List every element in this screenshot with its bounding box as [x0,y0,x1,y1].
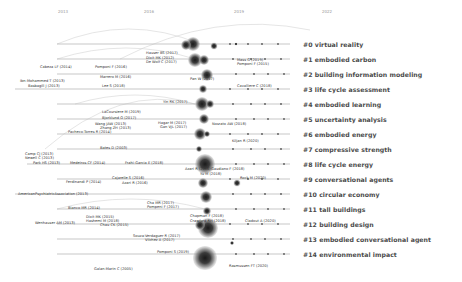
node-label[interactable]: Pomponi S (2019) [157,250,189,254]
citation-node[interactable] [230,241,234,245]
node-label[interactable]: Pompeni F (2017) [147,205,179,209]
cluster-label-1[interactable]: #1 embodied carbon [303,56,376,63]
node-label[interactable]: Gaudiano F (2018) [211,167,245,171]
node-label[interactable]: De Wolf C (2017) [146,60,177,64]
cluster-label-4[interactable]: #4 embodied learning [303,101,381,108]
citation-node[interactable] [199,85,207,93]
node-label[interactable]: Cavalliere C (2018) [237,84,272,88]
minor-node [247,43,249,45]
minor-node [250,238,252,240]
minor-node [235,118,237,120]
node-label[interactable]: Pacheco-Torres R (2014) [68,130,111,134]
node-label[interactable]: Azari R (2016) [185,167,211,171]
node-label[interactable]: Yin RK (2017) [163,100,187,104]
minor-node [235,73,237,75]
node-label[interactable]: Lee S (2018) [102,84,125,88]
node-label[interactable]: Ferdinandi P (2014) [66,180,101,184]
cluster-label-0[interactable]: #0 virtual reality [303,41,363,48]
minor-node [267,73,269,75]
minor-node [250,103,252,105]
node-label[interactable]: Wenhauser AM (2013) [35,221,75,225]
cluster-label-5[interactable]: #5 uncertainty analysis [303,116,387,123]
node-label[interactable]: Rasmussen FT (2020) [229,264,268,268]
node-label[interactable]: Marrero M (2016) [100,75,131,79]
citation-node[interactable] [235,43,238,46]
node-label[interactable]: Frahi-Garcia E (2018) [125,161,163,165]
node-label[interactable]: Basbagill J (2013) [28,84,60,88]
minor-node [247,88,249,90]
minor-node [283,73,285,75]
node-label[interactable]: Ibn-Mohammed T (2013) [20,79,65,83]
minor-node [250,148,252,150]
minor-node [267,253,269,255]
node-label[interactable]: AmericanPsychiatricAssociation (2013) [18,192,88,196]
node-label[interactable]: Pomponi F (2015) [237,62,269,66]
node-label[interactable]: Cladout A (2020) [245,219,276,223]
citation-node[interactable] [196,146,202,152]
minor-node [261,43,263,45]
node-label[interactable]: Bianco MR (2014) [68,206,100,210]
cluster-label-11[interactable]: #11 tall buildings [303,206,366,213]
citation-node[interactable] [199,55,209,65]
minor-node [280,193,282,195]
minor-node [253,253,255,255]
node-label[interactable]: Gan VJL (2017) [160,125,187,129]
cluster-label-13[interactable]: #13 embodied conversational agent [303,236,431,243]
node-label[interactable]: Nosrato AW (2018) [212,122,246,126]
cluster-label-14[interactable]: #14 environmental impact [303,251,397,258]
node-label[interactable]: Medeiros CF (2014) [70,161,105,165]
node-label[interactable]: Kiljan R (2020) [232,139,259,143]
node-label[interactable]: LaCoursiere M (2019) [102,110,141,114]
minor-node [253,163,255,165]
minor-node [235,253,237,255]
minor-node [264,193,266,195]
node-label[interactable]: Cajarelle S (2016) [112,176,144,180]
minor-node [235,208,237,210]
cluster-label-10[interactable]: #10 circular economy [303,191,380,198]
cluster-label-6[interactable]: #6 embodied energy [303,131,377,138]
minor-node [232,238,234,240]
citation-node[interactable] [195,154,215,174]
citation-node[interactable] [199,114,209,124]
cluster-label-9[interactable]: #9 conversational agents [303,176,393,183]
citation-node[interactable] [198,178,208,188]
node-label[interactable]: Hauser BS (2017) [146,51,178,55]
node-label[interactable]: Newell C (2013) [25,156,54,160]
node-label[interactable]: Chapman F (2018) [190,214,224,218]
cluster-label-8[interactable]: #8 life cycle energy [303,161,373,168]
cluster-label-12[interactable]: #12 building design [303,221,374,228]
minor-node [267,163,269,165]
node-label[interactable]: Azari R (2016) [122,181,148,185]
minor-node [277,43,279,45]
minor-node [283,118,285,120]
cluster-label-2[interactable]: #2 building information modeling [303,71,422,78]
node-label[interactable]: Bjorklund O (2017) [102,116,136,120]
citation-node[interactable] [234,180,241,187]
minor-node [277,133,279,135]
minor-node [280,148,282,150]
cluster-label-7[interactable]: #7 compressive strength [303,146,392,153]
node-label[interactable]: Chau CK (2015) [100,223,128,227]
node-label[interactable]: Cabeza LF (2014) [40,65,72,69]
citation-node[interactable] [206,100,214,108]
node-label[interactable]: Galan-Marin C (2005) [94,267,133,271]
node-label[interactable]: Rock M (2020) [240,176,266,180]
minor-node [229,43,231,45]
minor-node [283,163,285,165]
minor-node [247,223,249,225]
citation-node[interactable] [200,191,212,203]
node-label[interactable]: Crawford RH (2018) [190,219,226,223]
citation-node[interactable] [181,40,191,50]
citation-node[interactable] [204,131,210,137]
node-label[interactable]: Pomponi F (2016) [95,65,127,69]
citation-node[interactable] [193,246,217,270]
node-label[interactable]: Park HS (2013) [33,161,60,165]
node-label[interactable]: Vilchez A (2017) [145,238,174,242]
node-label[interactable]: Bates D (2003) [100,146,127,150]
cluster-label-3[interactable]: #3 life cycle assessment [303,86,390,93]
node-label[interactable]: Pan W (2017) [190,77,214,81]
citation-node[interactable] [211,43,218,50]
citation-nodes [181,37,241,270]
node-label[interactable]: Yu M (2018) [200,172,221,176]
minor-node [267,118,269,120]
